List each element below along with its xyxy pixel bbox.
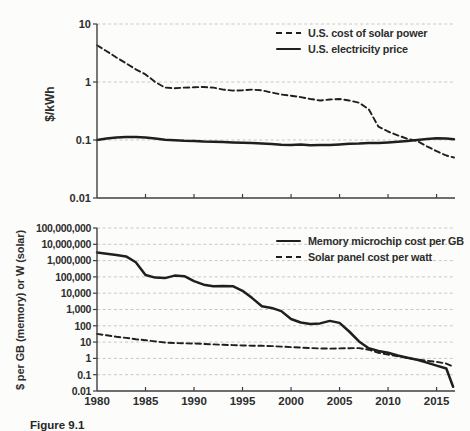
bottom-chart-y-axis-label: $ per GB (memory) or W (solar) — [14, 230, 26, 390]
legend-entry-solar-cost: U.S. cost of solar power — [276, 25, 427, 41]
legend-label-solar-cost: U.S. cost of solar power — [308, 27, 427, 39]
x-tick-label: 1985 — [133, 395, 159, 407]
series-line-1 — [97, 137, 454, 145]
legend-entry-solar-panel-cost: Solar panel cost per watt — [276, 249, 464, 265]
x-tick-label: 1995 — [230, 395, 256, 407]
legend-label-solar-panel-cost: Solar panel cost per watt — [308, 251, 432, 263]
legend-entry-electricity-price: U.S. electricity price — [276, 41, 427, 57]
x-tick-label: 2010 — [375, 395, 401, 407]
legend-label-electricity-price: U.S. electricity price — [308, 43, 408, 55]
y-tick-label: 1,000,000 — [47, 254, 91, 266]
solid-line-swatch-icon — [276, 48, 301, 51]
y-tick-label: 10 — [80, 336, 92, 348]
y-tick-label: 0.1 — [77, 369, 91, 381]
dashed-line-swatch-icon — [276, 32, 301, 34]
y-tick-label: 1 — [85, 76, 91, 88]
y-tick-label: 0.01 — [70, 192, 91, 204]
top-chart-legend: U.S. cost of solar power U.S. electricit… — [276, 25, 427, 57]
y-tick-label: 100,000,000 — [36, 222, 92, 234]
legend-label-memory-cost: Memory microchip cost per GB — [308, 235, 464, 247]
series-line-1 — [97, 334, 453, 367]
dashed-line-swatch-icon — [276, 256, 301, 258]
y-tick-label: 10,000 — [61, 287, 92, 299]
x-tick-label: 2000 — [278, 395, 304, 407]
y-tick-label: 100 — [74, 320, 91, 332]
x-tick-label: 2015 — [424, 395, 450, 407]
series-line-0 — [97, 252, 453, 386]
y-tick-label: 0.1 — [76, 134, 91, 146]
legend-entry-memory-cost: Memory microchip cost per GB — [276, 233, 464, 249]
x-tick-label: 2005 — [327, 395, 353, 407]
figure-caption: Figure 9.1 — [30, 419, 84, 431]
x-tick-label: 1980 — [84, 395, 110, 407]
top-chart-y-axis-label: $/kWh — [43, 86, 57, 121]
bottom-chart-legend: Memory microchip cost per GB Solar panel… — [276, 233, 464, 265]
x-tick-label: 1990 — [181, 395, 207, 407]
y-tick-label: 100,000 — [55, 271, 91, 283]
y-tick-label: 1,000 — [66, 303, 91, 315]
solid-line-swatch-icon — [276, 240, 301, 243]
y-tick-label: 10 — [79, 18, 91, 30]
y-tick-label: 10,000,000 — [41, 238, 91, 250]
y-tick-label: 1 — [85, 352, 91, 364]
